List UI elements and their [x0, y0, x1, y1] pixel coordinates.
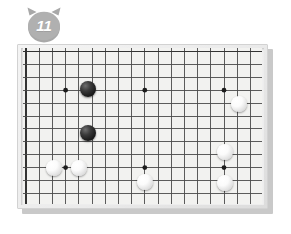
white-stone[interactable]	[217, 144, 233, 160]
white-stone[interactable]	[137, 174, 153, 190]
white-stone[interactable]	[217, 175, 233, 191]
stone-layer	[23, 48, 262, 204]
white-stone[interactable]	[231, 96, 247, 112]
level-badge: 11	[22, 6, 66, 46]
badge-number-label: 11	[22, 17, 66, 35]
black-stone[interactable]	[80, 81, 96, 97]
white-stone[interactable]	[46, 160, 62, 176]
white-stone[interactable]	[71, 160, 87, 176]
go-board-surface[interactable]	[23, 48, 262, 204]
black-stone[interactable]	[80, 125, 96, 141]
